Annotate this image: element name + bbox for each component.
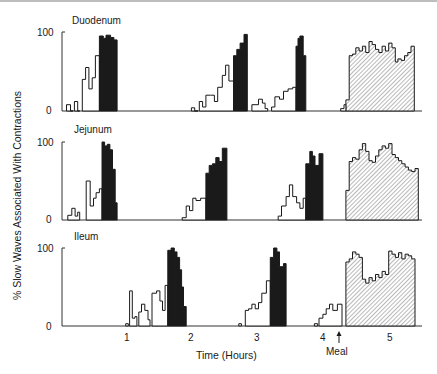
histogram-duodenum (62, 32, 422, 111)
panel-title-jejunum: Jejunum (74, 124, 112, 135)
meal-label: Meal (326, 346, 348, 357)
y-tick-0: 0 (46, 214, 52, 225)
fed-pattern-bars (346, 251, 415, 326)
fed-pattern-bars (346, 144, 418, 220)
fed-pattern-bars (346, 42, 414, 112)
x-tick-4: 4 (320, 332, 326, 343)
y-tick-0: 0 (46, 105, 52, 116)
x-tick-3: 3 (254, 332, 260, 343)
x-tick-1: 1 (124, 332, 130, 343)
histogram-ileum (62, 248, 422, 326)
panel-ileum: Ileum 100 0 (37, 231, 422, 332)
x-tick-2: 2 (188, 332, 194, 343)
x-axis-ticks: 1 2 3 4 5 (124, 332, 393, 343)
x-tick-5: 5 (387, 332, 393, 343)
x-axis-title: Time (Hours) (196, 349, 257, 361)
y-axis-title: % Slow Waves Associated With Contraction… (11, 91, 23, 300)
phase2-bars (126, 281, 342, 326)
meal-annotation: Meal (326, 331, 348, 357)
y-tick-0: 0 (46, 321, 52, 332)
figure-caption-cutoff (0, 366, 437, 374)
panel-title-ileum: Ileum (74, 231, 98, 242)
panel-jejunum: Jejunum 100 0 (37, 124, 422, 225)
panel-duodenum: Duodenum 100 0 (37, 15, 422, 116)
panel-title-duodenum: Duodenum (72, 15, 121, 26)
motility-chart: % Slow Waves Associated With Contraction… (0, 0, 437, 374)
arrow-up-icon (337, 331, 342, 336)
histogram-jejunum (62, 142, 422, 220)
y-tick-100: 100 (37, 243, 54, 254)
y-tick-100: 100 (37, 137, 54, 148)
y-tick-100: 100 (37, 27, 54, 38)
